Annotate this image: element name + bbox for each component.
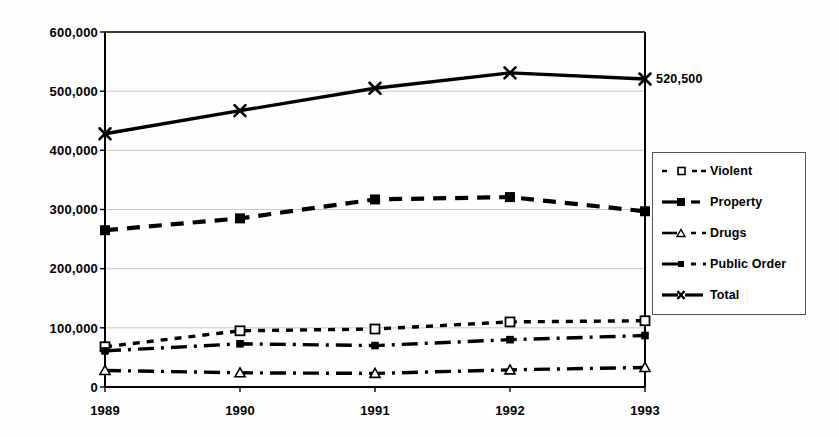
line-chart: 600,000 500,000 400,000 300,000 200,000 … xyxy=(0,0,839,437)
legend-item-drugs[interactable]: Drugs xyxy=(661,223,747,243)
x-tick-label: 1989 xyxy=(90,403,120,418)
legend-label: Drugs xyxy=(710,226,747,240)
x-tick-label: 1993 xyxy=(630,403,660,418)
x-tick-label: 1992 xyxy=(495,403,525,418)
x-tick-label: 1990 xyxy=(225,403,255,418)
legend-label: Public Order xyxy=(710,257,786,271)
legend-swatch-violent-icon xyxy=(661,164,707,178)
legend-label: Violent xyxy=(710,164,752,178)
legend-label: Total xyxy=(710,288,739,302)
legend-swatch-drugs-icon xyxy=(661,226,707,240)
legend-item-public-order[interactable]: Public Order xyxy=(661,254,786,274)
legend-item-violent[interactable]: Violent xyxy=(661,161,752,181)
legend-label: Property xyxy=(710,195,762,209)
x-tick-label: 1991 xyxy=(360,403,390,418)
legend-swatch-total-icon xyxy=(661,288,707,302)
legend-swatch-property-icon xyxy=(661,195,707,209)
legend-swatch-public-order-icon xyxy=(661,257,707,271)
legend-item-property[interactable]: Property xyxy=(661,192,762,212)
legend: Violent Property Drugs Public xyxy=(652,152,806,315)
legend-item-total[interactable]: Total xyxy=(661,285,739,305)
